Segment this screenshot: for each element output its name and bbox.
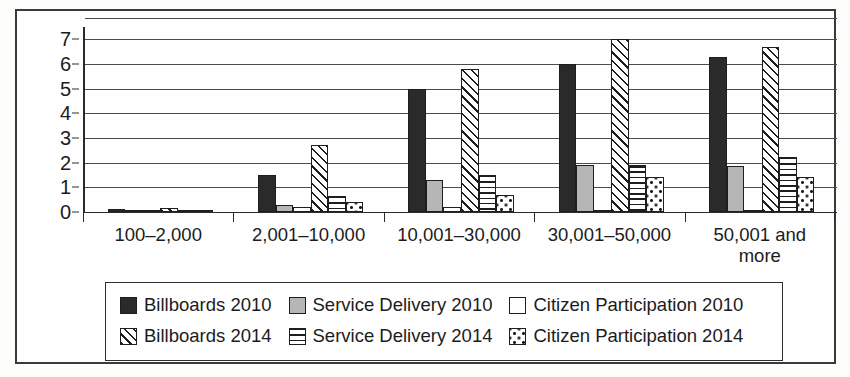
bar (727, 166, 745, 212)
bar (143, 210, 161, 212)
y-axis-tick-mark (72, 162, 79, 163)
y-axis-tick-mark (72, 138, 79, 139)
bar (559, 64, 577, 212)
bar (646, 177, 664, 212)
y-axis-tick-label: 1 (60, 177, 71, 197)
y-axis-tick-mark (72, 64, 79, 65)
plot-region: 01234567 100–2,0002,001–10,00010,001–30,… (43, 27, 839, 237)
plot-area (83, 27, 837, 213)
x-axis: 100–2,0002,001–10,00010,001–30,00030,001… (83, 213, 835, 277)
bar (311, 145, 329, 212)
bar (346, 202, 364, 212)
bar (108, 209, 126, 212)
bar-group (709, 27, 814, 212)
bar (797, 177, 815, 212)
bar (408, 89, 426, 212)
y-axis-tick-label: 0 (60, 202, 71, 222)
solid-white-swatch-icon (509, 297, 526, 314)
y-axis-tick-mark (72, 39, 79, 40)
solid-gray-swatch-icon (289, 297, 306, 314)
x-axis-category-label: 100–2,000 (83, 225, 233, 246)
x-axis-category-label: 10,001–30,000 (384, 225, 534, 246)
dotted-swatch-icon (509, 328, 526, 345)
chart-figure: 01234567 100–2,0002,001–10,00010,001–30,… (0, 0, 850, 377)
x-axis-tick-mark (534, 213, 535, 222)
y-axis-tick-label: 2 (60, 153, 71, 173)
bar-group-bars (258, 27, 363, 212)
y-axis: 01234567 (43, 27, 81, 217)
bar (709, 57, 727, 212)
legend-item[interactable]: Billboards 2010 (120, 290, 289, 321)
bar-group (108, 27, 213, 212)
x-axis-tick-mark (685, 213, 686, 222)
bar (426, 180, 444, 212)
bar (779, 157, 797, 213)
x-axis-tick-mark (834, 213, 835, 222)
bar (160, 208, 178, 212)
bar (258, 175, 276, 212)
x-axis-tick-mark (384, 213, 385, 222)
legend-label: Billboards 2014 (144, 327, 272, 346)
legend-item[interactable]: Billboards 2014 (120, 321, 289, 352)
legend-row-2010: Billboards 2010Service Delivery 2010Citi… (120, 290, 772, 321)
figure-border: 01234567 100–2,0002,001–10,00010,001–30,… (15, 9, 836, 364)
bar (443, 207, 461, 212)
legend-item[interactable]: Citizen Participation 2010 (509, 290, 760, 321)
bar-group (408, 27, 513, 212)
diagonal-hatch-swatch-icon (120, 328, 137, 345)
bar-group (258, 27, 363, 212)
bar (744, 210, 762, 212)
solid-black-swatch-icon (120, 297, 137, 314)
bar (594, 210, 612, 212)
y-axis-tick-mark (72, 187, 79, 188)
bar (611, 39, 629, 212)
bar-group (559, 27, 664, 212)
legend-label: Citizen Participation 2014 (533, 327, 743, 346)
y-axis-tick-label: 5 (60, 79, 71, 99)
bar (125, 210, 143, 212)
legend-item[interactable]: Citizen Participation 2014 (509, 321, 760, 352)
bar (629, 165, 647, 212)
y-axis-tick-mark (72, 212, 79, 213)
y-axis-tick-label: 4 (60, 103, 71, 123)
legend-label: Citizen Participation 2010 (533, 296, 743, 315)
bar (496, 195, 514, 212)
y-axis-tick-mark (72, 88, 79, 89)
legend-label: Billboards 2010 (144, 296, 272, 315)
chart-legend: Billboards 2010Service Delivery 2010Citi… (105, 282, 783, 361)
x-axis-tick-mark (233, 213, 234, 222)
bar-group-bars (108, 27, 213, 212)
legend-item[interactable]: Service Delivery 2010 (289, 290, 510, 321)
y-axis-tick-label: 7 (60, 29, 71, 49)
bar (576, 165, 594, 212)
x-axis-category-label: 2,001–10,000 (233, 225, 383, 246)
bar-group-bars (709, 27, 814, 212)
bar (276, 205, 294, 212)
y-axis-tick-label: 6 (60, 54, 71, 74)
x-axis-tick-mark (83, 213, 84, 222)
y-axis-tick-mark (72, 113, 79, 114)
bar (328, 196, 346, 212)
bar (293, 207, 311, 212)
legend-label: Service Delivery 2010 (313, 296, 493, 315)
legend-row-2014: Billboards 2014Service Delivery 2014Citi… (120, 321, 772, 352)
bar (195, 210, 213, 212)
y-axis-tick-label: 3 (60, 128, 71, 148)
x-axis-category-label: 30,001–50,000 (534, 225, 684, 246)
bar (762, 47, 780, 212)
legend-item[interactable]: Service Delivery 2014 (289, 321, 510, 352)
plot-top-border (85, 18, 837, 19)
horizontal-lines-swatch-icon (289, 328, 306, 345)
bar (479, 175, 497, 212)
x-axis-category-label: 50,001 and more (685, 225, 835, 266)
bar-group-bars (408, 27, 513, 212)
bar (178, 210, 196, 212)
bar (461, 69, 479, 212)
bar-group-bars (559, 27, 664, 212)
legend-label: Service Delivery 2014 (313, 327, 493, 346)
